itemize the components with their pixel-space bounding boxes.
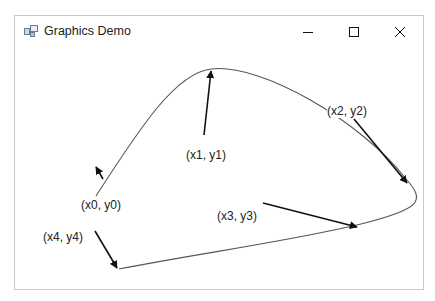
label-p1: (x1, y1) bbox=[186, 148, 226, 162]
label-p3: (x3, y3) bbox=[217, 209, 257, 223]
label-p0: (x0, y0) bbox=[81, 198, 121, 212]
label-p2: (x2, y2) bbox=[327, 104, 367, 118]
app-window: Graphics Demo (x1, y1) ( bbox=[14, 15, 424, 290]
arrow-p3 bbox=[263, 203, 357, 227]
arrow-p4 bbox=[95, 231, 117, 268]
arrow-p2 bbox=[354, 119, 407, 183]
curve-path bbox=[96, 69, 417, 269]
arrow-p1 bbox=[204, 71, 211, 135]
arrow-p0 bbox=[96, 167, 103, 179]
label-p4: (x4, y4) bbox=[43, 230, 83, 244]
drawing-canvas: (x1, y1) (x0, y0) (x2, y2) (x3, y3) (x4,… bbox=[15, 47, 423, 290]
